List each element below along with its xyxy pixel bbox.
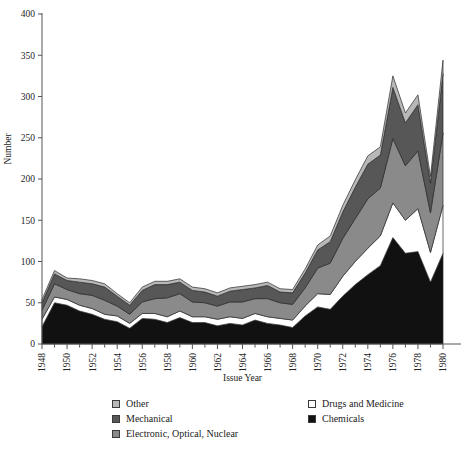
x-tick-label-1970: 1970 (313, 353, 323, 372)
stacked-area-chart: 0501001502002503003504001948195019521954… (0, 0, 472, 454)
y-tick-label-200: 200 (21, 174, 36, 184)
y-tick-label-50: 50 (26, 298, 36, 308)
legend-item-chemicals[interactable]: Chemicals (308, 411, 404, 426)
legend-swatch-chemicals (308, 415, 316, 423)
x-tick-label-1948: 1948 (37, 353, 47, 372)
legend-label-drugs-and-medicine: Drugs and Medicine (322, 399, 404, 409)
x-tick-label-1954: 1954 (113, 353, 123, 372)
y-tick-label-400: 400 (21, 9, 36, 19)
chart-container: 0501001502002503003504001948195019521954… (0, 0, 472, 454)
x-tick-label-1952: 1952 (88, 353, 98, 372)
legend-item-drugs-and-medicine[interactable]: Drugs and Medicine (308, 396, 404, 411)
legend-item-mechanical[interactable]: Mechanical (112, 411, 238, 426)
legend-label-mechanical: Mechanical (126, 414, 173, 424)
x-tick-label-1962: 1962 (213, 353, 223, 372)
x-tick-label-1958: 1958 (163, 353, 173, 372)
y-tick-label-250: 250 (21, 133, 36, 143)
x-tick-label-1974: 1974 (363, 353, 373, 372)
y-tick-label-350: 350 (21, 51, 36, 61)
legend-item-electronic-optical-nuclear[interactable]: Electronic, Optical, Nuclear (112, 426, 238, 441)
y-tick-label-300: 300 (21, 92, 36, 102)
legend-label-electronic-optical-nuclear: Electronic, Optical, Nuclear (126, 429, 238, 439)
x-tick-label-1980: 1980 (438, 353, 448, 372)
x-tick-label-1956: 1956 (138, 353, 148, 372)
legend-swatch-drugs-and-medicine (308, 400, 316, 408)
y-tick-label-150: 150 (21, 216, 36, 226)
legend-item-other[interactable]: Other (112, 396, 238, 411)
y-tick-label-0: 0 (30, 339, 35, 349)
legend-swatch-other (112, 400, 120, 408)
x-tick-label-1972: 1972 (338, 353, 348, 372)
x-tick-label-1960: 1960 (188, 353, 198, 372)
legend-column-left: Other Mechanical Electronic, Optical, Nu… (112, 396, 238, 441)
x-tick-label-1966: 1966 (263, 353, 273, 372)
x-axis-title: Issue Year (223, 373, 263, 383)
x-tick-label-1964: 1964 (238, 353, 248, 372)
legend-column-right: Drugs and Medicine Chemicals (308, 396, 404, 426)
chart-areas (42, 60, 443, 344)
legend-label-other: Other (126, 399, 149, 409)
y-axis-title: Number (3, 133, 13, 165)
legend-swatch-mechanical (112, 415, 120, 423)
y-tick-label-100: 100 (21, 257, 36, 267)
legend-swatch-electronic-optical-nuclear (112, 430, 120, 438)
x-tick-label-1976: 1976 (388, 353, 398, 372)
legend-label-chemicals: Chemicals (322, 414, 364, 424)
x-tick-label-1978: 1978 (413, 353, 423, 372)
x-tick-label-1950: 1950 (62, 353, 72, 372)
x-tick-label-1968: 1968 (288, 353, 298, 372)
